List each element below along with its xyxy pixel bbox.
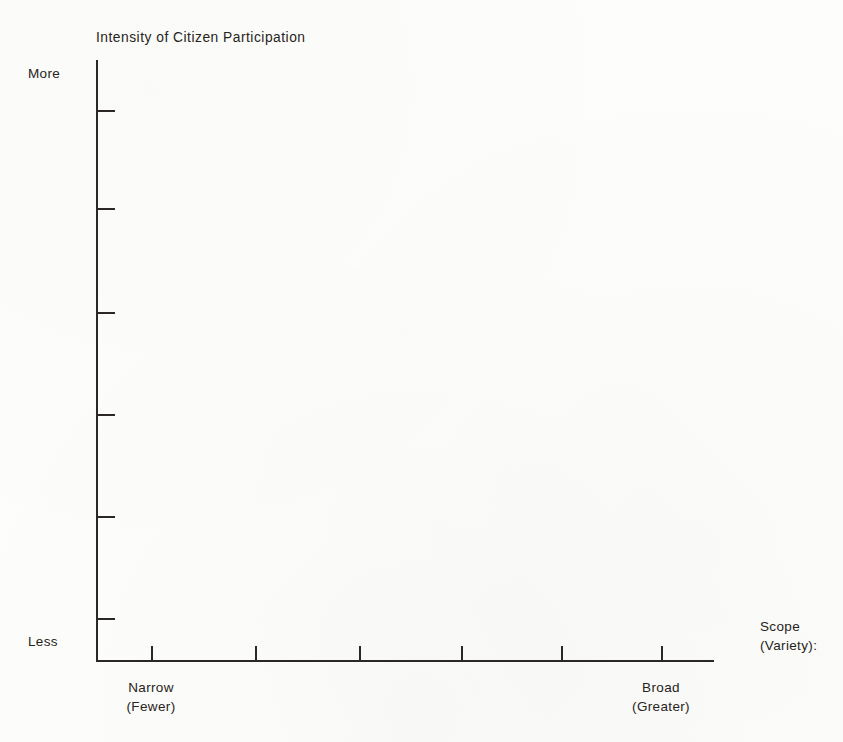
x-axis-right-label-line2: (Greater) [632, 697, 690, 716]
y-axis-top-label: More [28, 64, 60, 83]
plot-area [98, 60, 714, 660]
x-axis-tick [661, 646, 663, 661]
x-axis-right-label-line1: Broad [632, 678, 690, 697]
x-axis-caption-line1: Scope [760, 617, 817, 636]
x-axis-line [96, 660, 714, 662]
x-axis-tick [359, 646, 361, 661]
y-axis-tick [98, 312, 115, 314]
x-axis-tick [151, 646, 153, 661]
y-axis-tick [98, 414, 115, 416]
x-axis-caption: Scope (Variety): [760, 617, 817, 655]
y-axis-tick [98, 208, 115, 210]
page-title: Intensity of Citizen Participation [96, 28, 305, 48]
y-axis-bottom-label: Less [28, 632, 58, 651]
x-axis-caption-line2: (Variety): [760, 636, 817, 655]
y-axis-tick [98, 618, 115, 620]
x-axis-tick [461, 646, 463, 661]
x-axis-right-label: Broad (Greater) [632, 678, 690, 716]
x-axis-tick [561, 646, 563, 661]
y-axis-tick [98, 110, 115, 112]
x-axis-tick [255, 646, 257, 661]
x-axis-left-label-line2: (Fewer) [127, 697, 176, 716]
y-axis-tick [98, 516, 115, 518]
figure-canvas: Intensity of Citizen Participation More … [0, 0, 843, 742]
x-axis-left-label: Narrow (Fewer) [127, 678, 176, 716]
x-axis-left-label-line1: Narrow [127, 678, 176, 697]
